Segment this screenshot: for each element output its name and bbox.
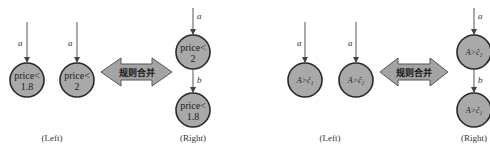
- caption-right: (Right): [461, 133, 487, 143]
- edge-label: a: [197, 11, 202, 21]
- left-rule-1: a A>ĉ₁: [288, 22, 322, 97]
- caption-left: (Left): [320, 133, 341, 143]
- node-label: A>ĉ₁: [296, 76, 314, 85]
- left-rule-1: a price< 1.8: [10, 22, 44, 97]
- node-label-line-1: price<: [64, 70, 90, 81]
- rule-merge-diagram: a price< 1.8 a price< 2 (Left) 规则合并 a pr…: [0, 0, 490, 153]
- node-label: A>ĉ₂: [347, 76, 365, 85]
- panel-price: a price< 1.8 a price< 2 (Left) 规则合并 a pr…: [10, 8, 210, 143]
- node-label-line-1: price<: [14, 70, 40, 81]
- merge-arrow: 规则合并: [101, 58, 172, 86]
- node-label-line-2: 2: [75, 81, 80, 92]
- merge-arrow: 规则合并: [380, 58, 448, 86]
- left-rule-2: a price< 2: [60, 22, 94, 97]
- merge-label: 规则合并: [396, 67, 432, 78]
- right-chain: a A>ĉ₂ b A>ĉ₁: [457, 8, 490, 127]
- edge-label: a: [478, 11, 483, 21]
- node-label: A>ĉ₁: [465, 106, 483, 115]
- node-label-line-2: 1.8: [187, 111, 200, 122]
- left-rule-2: a A>ĉ₂: [339, 22, 373, 97]
- node-label-line-1: price<: [180, 100, 206, 111]
- node-label-line-2: 2: [191, 53, 196, 64]
- right-chain: a price< 2 b price< 1.8: [176, 8, 210, 127]
- edge-label: b: [478, 75, 483, 85]
- edge-label: a: [18, 38, 23, 48]
- caption-left: (Left): [42, 133, 63, 143]
- node-label-line-1: price<: [180, 42, 206, 53]
- panel-threshold: a A>ĉ₁ a A>ĉ₂ (Left) 规则合并 a A>ĉ₂ b A>ĉ₁: [288, 8, 490, 143]
- edge-label: a: [68, 38, 73, 48]
- edge-label: b: [197, 75, 202, 85]
- edge-label: a: [297, 38, 302, 48]
- edge-label: a: [348, 38, 353, 48]
- node-label: A>ĉ₂: [465, 48, 483, 57]
- caption-right: (Right): [180, 133, 206, 143]
- merge-label: 规则合并: [119, 67, 155, 78]
- node-label-line-2: 1.8: [21, 81, 34, 92]
